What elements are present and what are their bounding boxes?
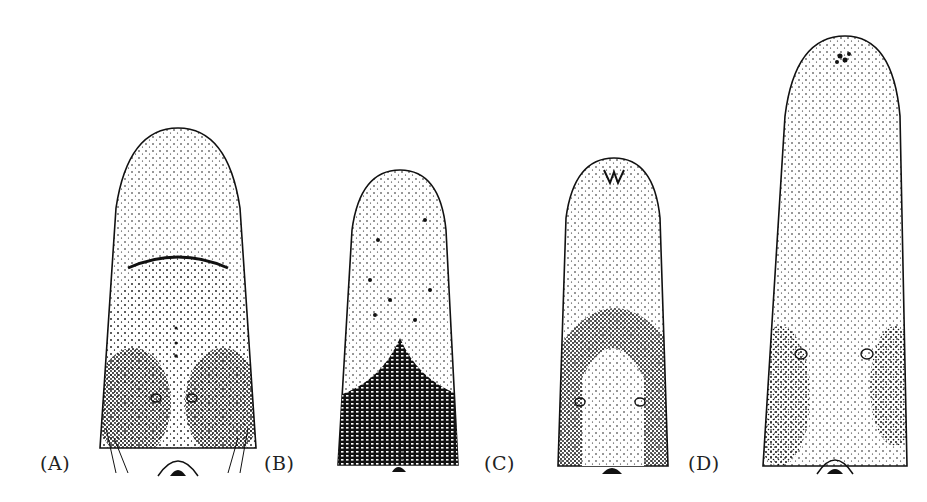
panel-label-a: (A)	[40, 452, 70, 474]
panel-label-b: (B)	[264, 452, 294, 474]
tongue-drawing-b	[330, 170, 470, 475]
panel-label-c: (C)	[484, 452, 515, 474]
tongue-drawing-d	[755, 36, 920, 476]
panel-label-d: (D)	[688, 452, 720, 474]
tongue-drawing-a	[88, 128, 268, 478]
tongue-drawing-c	[552, 158, 687, 476]
